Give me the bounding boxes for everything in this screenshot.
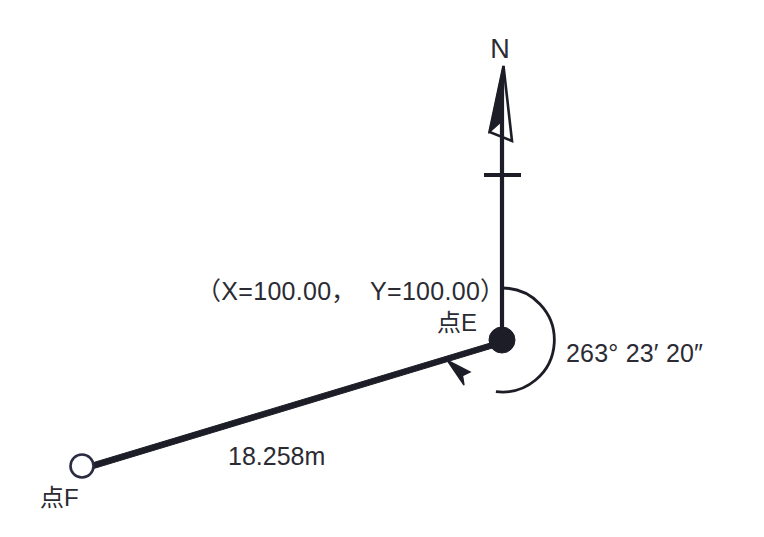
station-F-label: 点F xyxy=(40,484,79,511)
station-E-label: 点E xyxy=(437,309,477,336)
station-marker-E xyxy=(489,327,515,353)
north-label: N xyxy=(490,34,510,64)
bearing-arc-arrowhead-icon xyxy=(447,360,470,385)
diagram-canvas: N （X=100.00， Y=100.00） 点E 点F 18.258m 263… xyxy=(0,0,764,537)
distance-label: 18.258m xyxy=(228,442,325,470)
bearing-angle-label: 263° 23′ 20″ xyxy=(566,339,703,367)
survey-diagram: N （X=100.00， Y=100.00） 点E 点F 18.258m 263… xyxy=(0,0,764,537)
station-marker-F xyxy=(71,455,94,478)
station-E-coordinate-label: （X=100.00， Y=100.00） xyxy=(196,277,505,305)
